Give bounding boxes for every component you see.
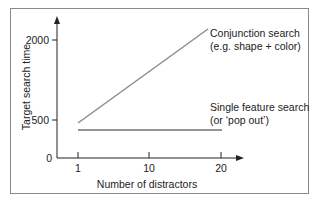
y-tick-label-500: 500 <box>31 114 49 126</box>
single-feature-label-line2: (or ‘pop out’) <box>210 114 269 126</box>
conjunction-label-line2: (e.g. shape + color) <box>210 40 301 52</box>
single-feature-label-line1: Single feature search <box>210 101 309 113</box>
x-tick-label-1: 1 <box>75 162 81 174</box>
y-axis-label: Target search time <box>20 44 32 131</box>
x-axis-label: Number of distractors <box>97 178 197 190</box>
chart: 2000 500 0 1 10 20 Number of distractors… <box>0 0 327 201</box>
x-tick-label-20: 20 <box>215 162 227 174</box>
y-tick-label-0: 0 <box>46 152 52 164</box>
y-axis-arrow-icon <box>54 16 60 24</box>
conjunction-label-line1: Conjunction search <box>210 27 300 39</box>
x-axis-arrow-icon <box>236 155 244 161</box>
x-tick-label-10: 10 <box>143 162 155 174</box>
conjunction-search-line <box>78 29 208 123</box>
